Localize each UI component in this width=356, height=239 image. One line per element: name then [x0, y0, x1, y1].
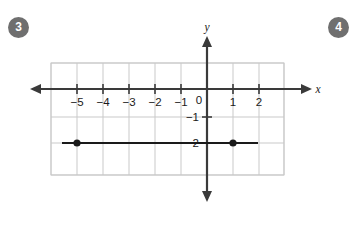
- grid-vertical-lines: [51, 63, 284, 175]
- y-tick-label--1: −1: [186, 111, 199, 123]
- grid-horizontal-lines: [51, 63, 284, 175]
- y-axis: [202, 36, 212, 202]
- x-tick-label--2: −2: [148, 96, 161, 108]
- y-axis-label: y: [203, 21, 210, 34]
- x-axis: [30, 84, 312, 94]
- y-axis-top-arrowhead: [202, 36, 212, 47]
- origin-label-0: 0: [196, 94, 202, 106]
- graph-svg: −5 −4 −3 −2 −1 0 1 2 −1 −2 x y: [0, 0, 356, 239]
- grid-frame: [51, 63, 284, 175]
- x-tick-label--3: −3: [122, 96, 135, 108]
- x-axis-label: x: [314, 83, 321, 95]
- x-tick-label--1: −1: [174, 96, 187, 108]
- plotted-line-series: [62, 139, 258, 146]
- data-point--5--2: [73, 139, 80, 146]
- y-axis-bottom-arrowhead: [202, 191, 212, 202]
- x-tick-label--5: −5: [70, 96, 83, 108]
- x-tick-label-2: 2: [256, 96, 262, 108]
- coordinate-plane-figure: −5 −4 −3 −2 −1 0 1 2 −1 −2 x y: [0, 0, 356, 239]
- x-axis-right-arrowhead: [301, 84, 312, 94]
- x-axis-left-arrowhead: [30, 84, 41, 94]
- x-tick-label--4: −4: [96, 96, 110, 108]
- x-tick-label-1: 1: [230, 96, 236, 108]
- data-point-1--2: [229, 139, 236, 146]
